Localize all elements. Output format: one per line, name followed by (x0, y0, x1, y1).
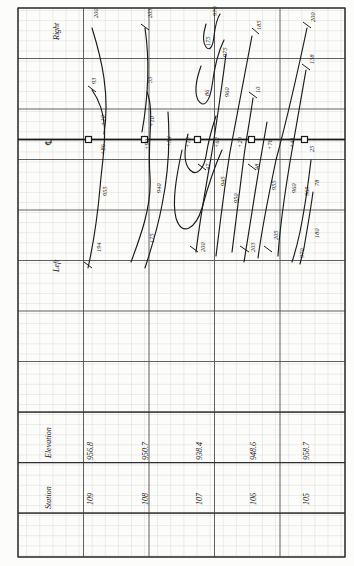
cross-section-sheet: 20093+10+8695519420355+10+90940175+54970… (0, 0, 354, 566)
grid-and-linework (0, 0, 354, 566)
minor-grid (18, 8, 345, 557)
